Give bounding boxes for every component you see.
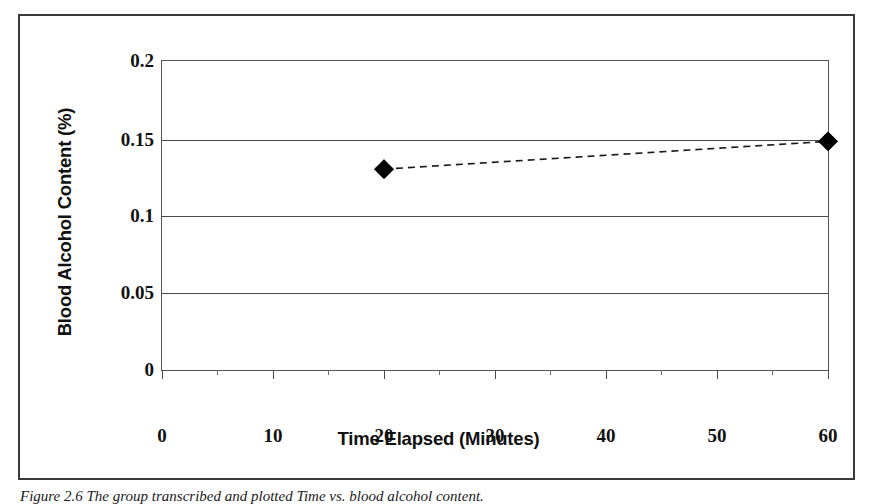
y-tick-label-0.1: 0.1 [78, 205, 154, 227]
figure-caption-text: The group transcribed and plotted Time v… [87, 488, 484, 504]
figure-frame: Blood Alcohol Content (%) 0.2 0.15 0.1 0… [18, 14, 855, 480]
x-tick-minor-15 [328, 370, 329, 375]
figure-caption: Figure 2.6 The group transcribed and plo… [20, 487, 860, 504]
data-point-marker [819, 132, 838, 151]
y-tick-label-0.2: 0.2 [78, 50, 154, 72]
figure-root: Blood Alcohol Content (%) 0.2 0.15 0.1 0… [0, 0, 874, 504]
y-tick-label-0: 0 [78, 359, 154, 381]
series-line [384, 141, 828, 169]
x-axis-title: Time Elapsed (Minutes) [20, 428, 857, 450]
x-tick-minor-5 [217, 370, 218, 375]
y-tick-label-0.05: 0.05 [78, 282, 154, 304]
x-tick-0 [162, 370, 163, 379]
plot-area: 0 10 20 30 40 50 60 [161, 60, 829, 371]
x-tick-40 [606, 370, 607, 379]
y-axis-title: Blood Alcohol Content (%) [54, 57, 76, 387]
x-tick-minor-35 [550, 370, 551, 375]
x-tick-60 [828, 370, 829, 379]
figure-caption-prefix: Figure 2.6 [20, 488, 83, 504]
x-tick-minor-25 [439, 370, 440, 375]
x-tick-minor-55 [772, 370, 773, 375]
data-series-layer [162, 61, 828, 370]
x-tick-50 [717, 370, 718, 379]
data-point-marker [375, 160, 394, 179]
x-tick-10 [273, 370, 274, 379]
x-tick-minor-45 [661, 370, 662, 375]
y-tick-label-0.15: 0.15 [78, 129, 154, 151]
x-tick-20 [384, 370, 385, 379]
x-tick-30 [495, 370, 496, 379]
